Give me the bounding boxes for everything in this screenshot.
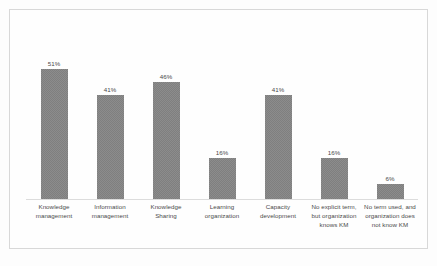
bar-value-label: 41% xyxy=(272,87,285,93)
x-axis-tick-labels: Knowledge management Information managem… xyxy=(26,203,418,230)
bar-rect xyxy=(97,95,124,199)
x-axis-tick-label: Knowledge management xyxy=(26,203,82,230)
bar-group: 16% xyxy=(194,26,250,199)
bar-group: 6% xyxy=(362,26,418,199)
bar-value-label: 41% xyxy=(104,87,117,93)
bar-group: 16% xyxy=(306,26,362,199)
x-axis-tick-label: Learning organization xyxy=(194,203,250,230)
x-axis-tick-label: Knowledge Sharing xyxy=(138,203,194,230)
bar-group: 41% xyxy=(82,26,138,199)
bar-value-label: 16% xyxy=(328,150,341,156)
bar-rect xyxy=(377,184,404,199)
bar-chart-figure: 51% 41% 46% 16% 41% 16% 6% Knowledg xyxy=(0,0,437,266)
bar-rect xyxy=(41,69,68,199)
bar-rect xyxy=(321,158,348,199)
bar-rect xyxy=(265,95,292,199)
bar-group: 46% xyxy=(138,26,194,199)
x-axis-line xyxy=(26,199,418,200)
bar-value-label: 51% xyxy=(48,61,61,67)
bar-rect xyxy=(209,158,236,199)
x-axis-tick-label: Information management xyxy=(82,203,138,230)
bar-value-label: 16% xyxy=(216,150,229,156)
bar-series-container: 51% 41% 46% 16% 41% 16% 6% xyxy=(26,26,418,199)
bar-value-label: 6% xyxy=(385,176,394,182)
x-axis-tick-label: Capacity development xyxy=(250,203,306,230)
bar-rect xyxy=(153,82,180,199)
x-axis-tick-label: No explicit term, but organization knows… xyxy=(306,203,362,230)
x-axis-tick-label: No term used, and organization does not … xyxy=(362,203,418,230)
bar-value-label: 46% xyxy=(160,74,173,80)
bar-group: 41% xyxy=(250,26,306,199)
bar-group: 51% xyxy=(26,26,82,199)
